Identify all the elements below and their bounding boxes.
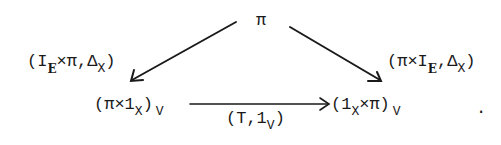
- label-part: (π×I: [387, 52, 428, 71]
- label-subscript: V: [267, 118, 275, 133]
- pi-symbol: π: [256, 11, 266, 30]
- left-arrow-label: (IE×π,ΔX): [27, 53, 115, 70]
- label-part: (T,1: [226, 109, 267, 128]
- node-subscript: X: [351, 104, 359, 119]
- label-subscript: E: [428, 62, 437, 76]
- node-part: (1: [331, 95, 351, 114]
- label-part: ): [465, 52, 475, 71]
- node-part: (π×1: [94, 95, 135, 114]
- period: .: [476, 99, 486, 118]
- bottom-arrow-label: (T,1V): [226, 110, 285, 127]
- label-part: ): [275, 109, 285, 128]
- left-arrow: [131, 22, 236, 81]
- label-part: ,Δ: [437, 52, 457, 71]
- label-subscript: E: [47, 62, 56, 76]
- node-outer-subscript: V: [393, 104, 401, 119]
- right-arrow-label: (π×IE,ΔX): [387, 53, 475, 70]
- label-subscript: X: [97, 61, 105, 76]
- label-part: ×π,Δ: [57, 52, 98, 71]
- label-part: (I: [27, 52, 47, 71]
- right-arrow: [290, 27, 381, 81]
- trailing-period: .: [476, 100, 486, 117]
- label-part: ): [105, 52, 115, 71]
- node-outer-subscript: V: [156, 104, 164, 119]
- commutative-diagram: π (IE×π,ΔX) (π×IE,ΔX) (π×1X)V (T,1V) (1X…: [0, 0, 501, 145]
- node-subscript: X: [135, 104, 143, 119]
- node-top-pi: π: [256, 12, 266, 29]
- node-part: ): [143, 95, 153, 114]
- node-bottom-right: (1X×π)V: [331, 96, 401, 113]
- node-part: ×π): [359, 95, 390, 114]
- label-subscript: X: [457, 61, 465, 76]
- node-bottom-left: (π×1X)V: [94, 96, 164, 113]
